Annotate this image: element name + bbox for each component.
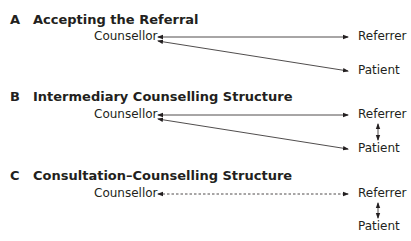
arrow-counsellor-patient xyxy=(158,119,348,149)
arrows-layer xyxy=(0,0,411,241)
arrow-counsellor-patient xyxy=(158,41,348,71)
